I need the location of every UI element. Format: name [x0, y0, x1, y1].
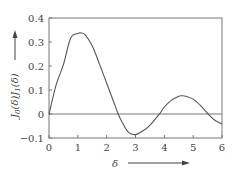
x-tick-label: 4 [161, 142, 167, 153]
y-tick-label: 0.4 [28, 13, 44, 24]
y-axis-ticks: −0.100.10.20.30.4 [20, 13, 52, 144]
y-tick-label: 0 [38, 109, 44, 120]
x-tick-label: 6 [219, 142, 225, 153]
x-axis-label: δ [112, 158, 118, 169]
x-tick-label: 5 [190, 142, 196, 153]
y-tick-label: 0.2 [28, 61, 44, 72]
x-axis-arrow [128, 161, 190, 166]
x-tick-label: 0 [46, 142, 52, 153]
y-tick-label: 0.3 [28, 37, 44, 48]
y-tick-label: −0.1 [20, 133, 44, 144]
data-line [49, 33, 222, 135]
x-tick-label: 1 [75, 142, 81, 153]
x-tick-label: 2 [103, 142, 109, 153]
svg-text:J0(δ)J1(δ): J0(δ)J1(δ) [9, 73, 22, 120]
y-tick-label: 0.1 [28, 85, 44, 96]
x-tick-label: 3 [132, 142, 138, 153]
y-axis-arrow [13, 30, 18, 60]
y-axis-label: J0(δ)J1(δ) [9, 73, 22, 120]
chart: −0.100.10.20.30.4 0123456 J0(δ)J1(δ) δ [0, 0, 235, 178]
plot-frame [49, 18, 222, 138]
